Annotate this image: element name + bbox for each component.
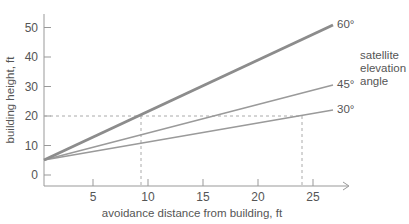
legend-title-line1: satellite <box>360 49 399 61</box>
x-tick-label: 5 <box>90 190 97 204</box>
y-tick-label: 10 <box>25 139 39 153</box>
series-label-45: 45° <box>337 78 354 90</box>
series-line-45 <box>44 85 333 160</box>
x-axis-title: avoidance distance from building, ft <box>102 207 283 219</box>
series-label-30: 30° <box>337 103 354 115</box>
x-tick-label: 15 <box>196 190 210 204</box>
y-tick-label: 0 <box>31 168 38 182</box>
chart: 0 10 20 30 40 50 5 10 15 20 25 avoidance… <box>0 0 409 224</box>
x-tick-label: 20 <box>251 190 265 204</box>
legend-title-line2: elevation <box>360 62 406 74</box>
x-tick-label: 10 <box>141 190 155 204</box>
x-ticks <box>93 179 313 186</box>
series-line-60 <box>44 25 333 160</box>
y-axis-title: building height, ft <box>4 56 16 144</box>
y-tick-label: 50 <box>25 21 39 35</box>
series-label-60: 60° <box>337 18 354 30</box>
y-tick-label: 20 <box>25 109 39 123</box>
y-tick-label: 30 <box>25 80 39 94</box>
series-line-30 <box>44 110 333 160</box>
y-ticks <box>44 28 51 176</box>
x-tick-label: 25 <box>306 190 320 204</box>
legend-title-line3: angle <box>360 75 388 87</box>
y-tick-label: 40 <box>25 50 39 64</box>
